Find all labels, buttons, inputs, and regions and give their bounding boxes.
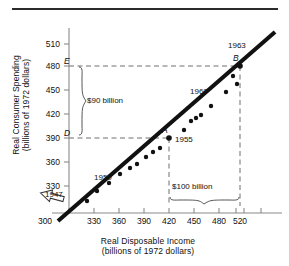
y-axis-title: Real Consumer Spending (billions of 1972… — [11, 40, 31, 170]
brace-vertical-90-billion — [79, 67, 86, 135]
figure-consumption-function: 510 480 450 420 390 360 330 300 330 360 … — [0, 0, 289, 266]
brace-horizontal-100-billion — [170, 197, 239, 204]
data-point — [118, 172, 122, 176]
x-tick-label-520: 520 — [227, 216, 253, 226]
y-tick-label-510: 510 — [34, 39, 60, 49]
data-point — [235, 82, 239, 86]
data-point — [151, 150, 155, 154]
data-point — [144, 155, 148, 159]
y-tick-label-360: 360 — [34, 157, 60, 167]
year-label-1955: 1955 — [175, 135, 193, 144]
y-tick-label-420: 420 — [34, 109, 60, 119]
point-label-D: D — [64, 128, 70, 138]
year-label-1963: 1963 — [228, 41, 246, 50]
data-point — [209, 104, 213, 108]
data-point-A — [166, 135, 172, 141]
data-point-B — [237, 63, 243, 69]
brace-label-100-billion: $100 billion — [172, 182, 212, 191]
brace-label-90-billion: $90 billion — [87, 96, 123, 105]
y-tick-label-450: 450 — [34, 85, 60, 95]
data-point — [85, 199, 89, 203]
y-axis-title-line2: (billions of 1972 dollars) — [21, 40, 31, 170]
x-tick-label-420: 420 — [156, 216, 182, 226]
y-tick-label-390: 390 — [34, 133, 60, 143]
x-tick-label-360: 360 — [106, 216, 132, 226]
year-label-1960: 1960 — [190, 87, 208, 96]
data-point — [194, 116, 198, 120]
x-axis-title-line2: (billions of 1972 dollars) — [68, 246, 228, 256]
data-point — [199, 113, 203, 117]
data-point — [158, 146, 162, 150]
y-axis-title-line1: Real Consumer Spending — [11, 40, 21, 170]
data-point — [95, 189, 99, 193]
x-tick-marks — [69, 208, 261, 213]
data-point — [231, 74, 235, 78]
x-tick-label-330: 330 — [81, 216, 107, 226]
point-label-A: A — [162, 125, 168, 135]
year-label-1950: 1950 — [94, 173, 112, 182]
point-label-E: E — [64, 56, 70, 66]
x-tick-label-450: 450 — [181, 216, 207, 226]
data-point — [182, 128, 186, 132]
point-label-B: B — [233, 53, 239, 63]
data-point — [189, 119, 193, 123]
y-tick-label-480: 480 — [34, 61, 60, 71]
x-axis-title: Real Disposable Income (billions of 1972… — [68, 236, 228, 256]
x-tick-label-390: 390 — [131, 216, 157, 226]
x-tick-label-300: 300 — [32, 216, 58, 226]
year-label-1947: 1947 — [45, 190, 63, 199]
x-axis-title-line1: Real Disposable Income — [68, 236, 228, 246]
data-point — [128, 166, 132, 170]
data-point — [224, 90, 228, 94]
data-point — [135, 162, 139, 166]
